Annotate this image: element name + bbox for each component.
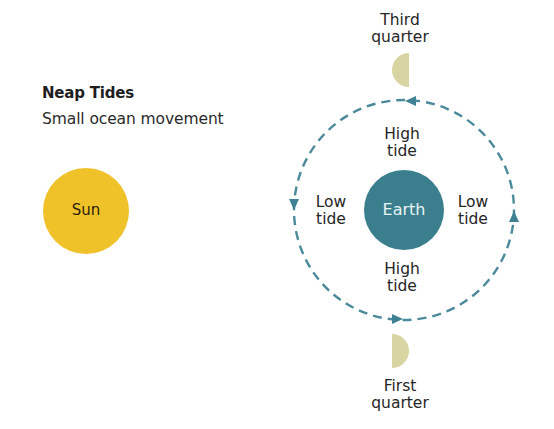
low-tide-left-line1: Low (306, 194, 356, 211)
high-tide-top-line2: tide (362, 143, 442, 160)
third-quarter-label: Third quarter (355, 12, 445, 46)
first-quarter-label: First quarter (355, 378, 445, 412)
orbit-arrow-top-icon (405, 96, 416, 106)
orbit-arrow-right-icon (509, 211, 519, 222)
low-tide-left-line2: tide (306, 211, 356, 228)
high-tide-top-label: High tide (362, 126, 442, 160)
high-tide-top-line1: High (362, 126, 442, 143)
first-quarter-moon-icon (392, 334, 409, 368)
third-quarter-label-line1: Third (355, 12, 445, 29)
orbit-arrow-left-icon (289, 199, 299, 210)
first-quarter-label-line1: First (355, 378, 445, 395)
low-tide-right-line1: Low (448, 194, 498, 211)
third-quarter-moon-icon (392, 53, 409, 87)
low-tide-right-line2: tide (448, 211, 498, 228)
third-quarter-label-line2: quarter (355, 29, 445, 46)
low-tide-right-label: Low tide (448, 194, 498, 228)
sun-label: Sun (43, 201, 129, 219)
high-tide-bottom-line2: tide (362, 278, 442, 295)
first-quarter-label-line2: quarter (355, 395, 445, 412)
orbit-arrow-bottom-icon (392, 314, 403, 324)
high-tide-bottom-line1: High (362, 261, 442, 278)
low-tide-left-label: Low tide (306, 194, 356, 228)
high-tide-bottom-label: High tide (362, 261, 442, 295)
earth-label: Earth (364, 200, 444, 219)
